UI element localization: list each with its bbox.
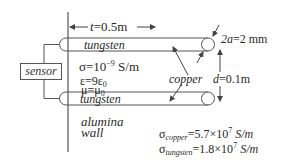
sensor-wire-top	[44, 45, 59, 64]
wall-label-line2: wall	[81, 126, 103, 139]
bottom-conductor-end-circle	[202, 92, 215, 105]
wall-sigma: σ=10−9 S/m	[79, 60, 139, 73]
diameter-arrow-top	[213, 25, 219, 36]
top-conductor-label: tungsten	[84, 39, 125, 51]
length-label: t=0.5m	[90, 20, 127, 33]
top-conductor	[60, 38, 209, 51]
copper-conductivity: σcopper=5.7×107 S/m	[159, 128, 253, 140]
sensor-wire-bottom	[44, 80, 59, 99]
wall-mu: μ=μ0	[81, 84, 105, 96]
sensor-label: sensor	[25, 64, 56, 79]
tungsten-conductivity: σtungsten=1.8×107 S/m	[159, 143, 258, 155]
sensor-box: sensor	[20, 63, 62, 80]
top-conductor-end-circle	[202, 38, 215, 51]
separation-label: d=0.1m	[213, 73, 250, 85]
diameter-label: 2a=2 mm	[221, 33, 267, 45]
copper-label: copper	[169, 73, 202, 85]
diameter-arrow-bottom	[197, 52, 203, 63]
